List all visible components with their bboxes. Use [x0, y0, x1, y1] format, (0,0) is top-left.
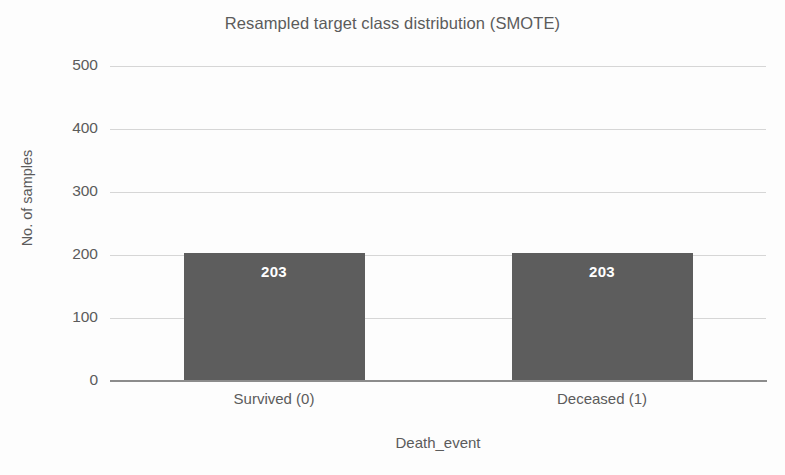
y-axis-tick-label: 500 [40, 56, 98, 74]
bar-chart-figure: Resampled target class distribution (SMO… [0, 0, 785, 475]
x-axis-tick-labels: Survived (0)Deceased (1) [110, 390, 766, 416]
bar: 203 [512, 253, 693, 381]
gridline [110, 66, 766, 67]
y-axis-tick-label: 0 [40, 371, 98, 389]
bar-value-label: 203 [184, 263, 365, 280]
y-axis-tick-label: 100 [40, 308, 98, 326]
x-axis-line [110, 380, 767, 382]
x-axis-tick-label: Deceased (1) [438, 390, 766, 407]
y-axis-tick-label: 200 [40, 245, 98, 263]
gridline [110, 129, 766, 130]
y-axis-tick-labels: 0100200300400500 [36, 66, 98, 381]
bar: 203 [184, 253, 365, 381]
y-axis-tick-label: 400 [40, 119, 98, 137]
gridline [110, 192, 766, 193]
x-axis-title: Death_event [110, 434, 766, 451]
x-axis-tick-label: Survived (0) [110, 390, 438, 407]
chart-title: Resampled target class distribution (SMO… [0, 14, 785, 33]
plot-area: 203203 [110, 66, 766, 381]
y-axis-tick-label: 300 [40, 182, 98, 200]
y-axis-title: No. of samples [19, 118, 35, 278]
bar-value-label: 203 [512, 263, 693, 280]
